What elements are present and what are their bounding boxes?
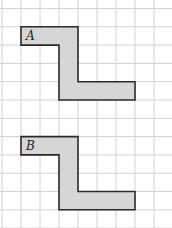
- shape-b-label: B: [25, 139, 35, 153]
- grid-diagram: A B: [0, 0, 172, 228]
- shape-a-label: A: [25, 29, 35, 43]
